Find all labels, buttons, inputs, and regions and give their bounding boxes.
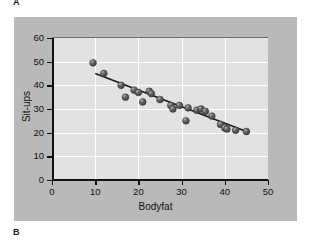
x-axis-tick	[182, 180, 183, 185]
figure-panel-a: A 0102030405060 01020304050 Bodyfat Sit-…	[0, 0, 311, 241]
data-point	[170, 106, 177, 113]
y-axis-tick-label: 50	[22, 57, 44, 67]
panel-label-b: B	[13, 228, 20, 237]
data-point	[243, 128, 250, 135]
x-axis-tick-label: 50	[255, 187, 281, 197]
data-point	[139, 99, 146, 106]
y-axis-tick-label: 60	[22, 33, 44, 43]
x-axis-tick-label: 0	[39, 187, 65, 197]
x-axis-tick	[225, 180, 226, 185]
scatter-points-layer	[52, 38, 268, 180]
data-point	[224, 126, 231, 133]
scatter-chart: 0102030405060 01020304050 Bodyfat Sit-up…	[14, 17, 297, 221]
data-point	[148, 90, 155, 97]
x-axis-tick	[138, 180, 139, 185]
x-axis-tick-label: 30	[169, 187, 195, 197]
x-axis-tick	[268, 180, 269, 185]
panel-label-a: A	[13, 0, 20, 7]
y-axis-tick-label: 10	[22, 151, 44, 161]
data-point	[100, 70, 107, 77]
data-point	[202, 108, 209, 115]
data-point	[118, 82, 125, 89]
data-point	[90, 59, 97, 66]
data-point	[185, 104, 192, 111]
x-axis-tick	[52, 180, 53, 185]
data-point	[122, 94, 129, 101]
x-axis-tick-label: 20	[125, 187, 151, 197]
x-axis-title: Bodyfat	[14, 201, 297, 212]
data-point	[157, 96, 164, 103]
data-point	[176, 102, 183, 109]
data-point	[208, 113, 215, 120]
data-point	[183, 117, 190, 124]
data-point	[135, 89, 142, 96]
y-axis-title: Sit-ups	[21, 67, 32, 147]
data-point	[232, 127, 239, 134]
x-axis-tick	[95, 180, 96, 185]
x-axis-tick-label: 10	[82, 187, 108, 197]
y-axis-tick-label: 0	[22, 175, 44, 185]
x-axis-tick-label: 40	[212, 187, 238, 197]
